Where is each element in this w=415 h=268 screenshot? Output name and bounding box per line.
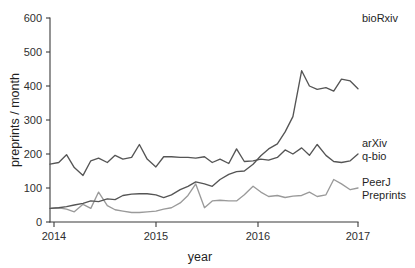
y-tick-label-600: 600: [24, 12, 42, 24]
y-tick-label-400: 400: [24, 80, 42, 92]
series-label-peerj-line1: PeerJ: [362, 176, 391, 188]
series-label-biorxiv: bioRxiv: [362, 12, 399, 24]
x-tick-label-2017: 2017: [346, 230, 370, 242]
preprints-per-month-line-chart: 0 100 200 300 400 500 600 2014 2015 2016…: [0, 0, 415, 268]
series-label-arxiv-line1: arXiv: [362, 137, 388, 149]
series-line-biorxiv: [50, 71, 358, 209]
y-axis-ticks: [46, 18, 50, 222]
series-line-arxiv-q-bio: [50, 144, 358, 175]
y-tick-label-100: 100: [24, 182, 42, 194]
y-axis-title: preprints / month: [8, 73, 22, 167]
series-label-peerj-line2: Preprints: [362, 189, 407, 201]
y-tick-label-0: 0: [36, 216, 42, 228]
x-tick-label-2015: 2015: [144, 230, 168, 242]
x-axis-title: year: [188, 250, 212, 264]
x-tick-label-2016: 2016: [246, 230, 270, 242]
chart-figure: 0 100 200 300 400 500 600 2014 2015 2016…: [0, 0, 415, 268]
x-axis-ticks: [54, 222, 358, 227]
y-tick-label-300: 300: [24, 114, 42, 126]
x-tick-label-2014: 2014: [42, 230, 66, 242]
y-tick-label-500: 500: [24, 46, 42, 58]
y-tick-label-200: 200: [24, 148, 42, 160]
series-label-arxiv-line2: q-bio: [362, 150, 386, 162]
